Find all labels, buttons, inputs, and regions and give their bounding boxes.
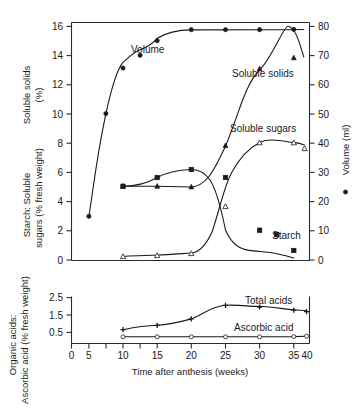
upper-right-tick-60: 60	[318, 79, 330, 90]
left-axis-title-starch-line1: Starch: Soluble	[21, 173, 32, 237]
upper-right-tick-30: 30	[318, 167, 330, 178]
upper-left-tick-4: 4	[57, 196, 63, 207]
upper-right-tick-70: 70	[318, 50, 330, 61]
upper-left-tick-16: 16	[52, 21, 64, 32]
x-tick-40: 40	[301, 350, 313, 361]
left-axis-title-organic-line2: Ascorbic acid (% fresh weight)	[19, 276, 30, 404]
annotation-soluble-solids: Soluble solids	[232, 68, 294, 79]
upper-left-tick-12: 12	[52, 79, 64, 90]
upper-left-tick-8: 8	[57, 138, 63, 149]
upper-right-tick-labels: 80 70 60 50 40 30 20 10 0	[318, 21, 330, 266]
annotation-starch: Starch	[272, 230, 301, 241]
x-tick-5: 5	[86, 350, 92, 361]
x-tick-15: 15	[152, 350, 164, 361]
upper-right-tick-40: 40	[318, 138, 330, 149]
volume-legend-dot-icon	[343, 190, 347, 194]
x-tick-10: 10	[117, 350, 129, 361]
lower-y-tick-1p5: 1.5	[49, 310, 63, 321]
upper-right-tick-10: 10	[318, 225, 330, 236]
figure-root: 16 14 12 10 8 6 4 2 0 80 70 60 50	[0, 0, 360, 410]
upper-left-tick-6: 6	[57, 167, 63, 178]
x-axis-title: Time after anthesis (weeks)	[132, 366, 248, 377]
lower-y-tick-0p5: 0.5	[49, 327, 63, 338]
curve-ascorbic-acid	[123, 336, 307, 337]
x-tick-20: 20	[186, 350, 198, 361]
x-tick-25: 25	[220, 350, 232, 361]
left-axis-title-solids-line1: Soluble solids	[21, 65, 32, 124]
upper-left-tick-14: 14	[52, 50, 64, 61]
left-axis-title-starch-line2: sugars (% fresh weight)	[33, 148, 44, 248]
annotation-ascorbic-acid: Ascorbic acid	[234, 322, 293, 333]
annotation-volume: Volume	[131, 44, 165, 55]
lower-y-tick-labels: 2.5 1.5 0.5	[49, 292, 63, 338]
upper-left-tick-0: 0	[57, 255, 63, 266]
x-tick-30: 30	[254, 350, 266, 361]
annotation-total-acids: Total acids	[245, 295, 292, 306]
left-axis-title-organic-line1: Organic acids:	[7, 315, 18, 376]
upper-right-tick-0: 0	[318, 255, 324, 266]
x-tick-0: 0	[69, 350, 75, 361]
right-axis-title: Volume (ml)	[340, 125, 351, 176]
upper-right-tick-50: 50	[318, 109, 330, 120]
annotation-soluble-sugars: Soluble sugars	[230, 123, 296, 134]
lower-y-tick-2p5: 2.5	[49, 292, 63, 303]
upper-right-tick-80: 80	[318, 21, 330, 32]
left-axis-title-solids-line2: (%)	[33, 88, 44, 103]
upper-left-tick-2: 2	[57, 225, 63, 236]
x-tick-35: 35	[288, 350, 300, 361]
upper-right-tick-20: 20	[318, 196, 330, 207]
figure-background	[0, 0, 360, 410]
upper-left-tick-10: 10	[52, 109, 64, 120]
